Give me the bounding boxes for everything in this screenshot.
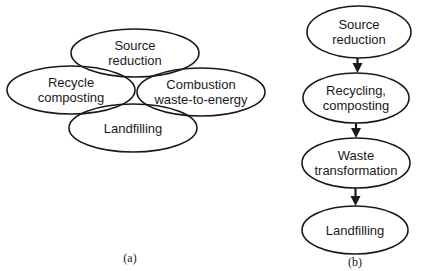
diagram-b-hierarchy-flow: SourcereductionRecycling,compostingWaste… (302, 6, 411, 254)
arrow-source-reduction-to-recycling-composting (353, 58, 363, 73)
node-label: Landfilling (104, 121, 163, 136)
node-label: Recycling, (326, 83, 386, 98)
caption-a: (a) (123, 251, 136, 265)
node-label: Combustion (166, 77, 235, 92)
diagram-a-overlapping-ellipses: SourcereductionRecyclecompostingCombusti… (7, 29, 265, 152)
node-label: composting (323, 98, 389, 113)
diagram_a-node-combustion: Combustionwaste-to-energy (137, 68, 265, 116)
diagram_b-node-source-reduction: Sourcereduction (307, 6, 411, 58)
caption-b: (b) (348, 255, 362, 269)
diagram_b-node-waste-transformation: Wastetransformation (302, 138, 410, 188)
diagram_a-node-landfilling: Landfilling (69, 104, 197, 152)
arrow-down-icon (353, 63, 363, 73)
node-label: Waste (338, 148, 374, 163)
arrow-down-icon (351, 128, 361, 138)
node-label: Source (114, 38, 155, 53)
diagram-canvas: SourcereductionRecyclecompostingCombusti… (0, 0, 424, 271)
diagram_a-node-recycle-composting: Recyclecomposting (7, 66, 135, 114)
node-label: reduction (108, 53, 161, 68)
diagram_b-node-landfilling: Landfilling (302, 206, 408, 254)
node-label: composting (38, 90, 104, 105)
diagram_b-node-recycling-composting: Recycling,composting (303, 73, 409, 123)
node-label: Source (338, 17, 379, 32)
arrow-waste-transformation-to-landfilling (351, 188, 361, 206)
node-label: transformation (314, 163, 397, 178)
arrow-recycling-composting-to-waste-transformation (351, 123, 361, 138)
arrow-down-icon (351, 196, 361, 206)
node-label: reduction (332, 32, 385, 47)
node-label: Landfilling (326, 223, 385, 238)
node-label: Recycle (48, 75, 94, 90)
node-label: waste-to-energy (153, 92, 248, 107)
